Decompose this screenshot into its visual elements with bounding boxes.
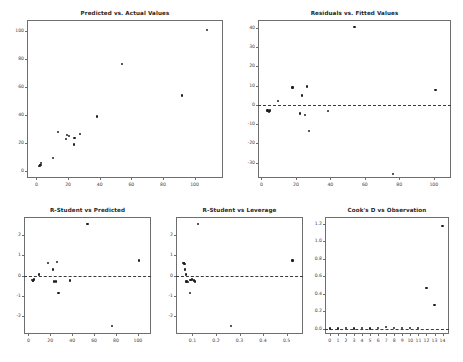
y-tick-cooks-d-vs-observation <box>323 259 325 260</box>
y-tick-label-rstudent-vs-predicted: 0 <box>2 273 21 279</box>
y-tick-rstudent-vs-leverage <box>174 296 176 297</box>
x-tick-label-residuals-vs-fitted: 0 <box>260 182 263 188</box>
y-tick-residuals-vs-fitted <box>256 86 258 87</box>
data-point <box>32 280 34 282</box>
data-point <box>185 273 187 275</box>
data-point <box>304 114 306 116</box>
x-tick-label-cooks-d-vs-observation: 13 <box>432 338 438 344</box>
chart-panel-predicted-vs-actual: Predicted vs. Actual Values0204060801000… <box>0 0 463 362</box>
y-tick-label-cooks-d-vs-observation: 1.2 <box>303 221 322 227</box>
x-tick-label-cooks-d-vs-observation: 12 <box>424 338 430 344</box>
x-tick-label-cooks-d-vs-observation: 0 <box>328 338 331 344</box>
data-point <box>361 327 363 329</box>
y-tick-cooks-d-vs-observation <box>323 329 325 330</box>
x-tick-residuals-vs-fitted <box>399 178 400 180</box>
y-tick-label-residuals-vs-fitted: -30 <box>236 160 255 166</box>
x-tick-cooks-d-vs-observation <box>402 334 403 336</box>
plot-area-residuals-vs-fitted <box>258 20 451 178</box>
y-tick-label-cooks-d-vs-observation: 0.2 <box>303 308 322 314</box>
x-tick-residuals-vs-fitted <box>365 178 366 180</box>
data-point <box>269 109 271 111</box>
x-tick-residuals-vs-fitted <box>434 178 435 180</box>
x-tick-cooks-d-vs-observation <box>338 334 339 336</box>
y-tick-rstudent-vs-predicted <box>22 255 24 256</box>
y-tick-rstudent-vs-leverage <box>174 255 176 256</box>
x-tick-predicted-vs-actual <box>195 178 196 180</box>
chart-title-cooks-d-vs-observation: Cook's D vs Observation <box>325 206 449 214</box>
x-tick-rstudent-vs-leverage <box>287 334 288 336</box>
x-tick-label-predicted-vs-actual: 80 <box>160 182 166 188</box>
x-tick-label-rstudent-vs-predicted: 40 <box>69 338 75 344</box>
data-point <box>433 304 435 306</box>
data-point <box>73 143 75 145</box>
x-tick-residuals-vs-fitted <box>330 178 331 180</box>
data-point <box>206 29 208 31</box>
data-point <box>369 327 371 329</box>
y-tick-label-residuals-vs-fitted: 30 <box>236 44 255 50</box>
x-tick-cooks-d-vs-observation <box>386 334 387 336</box>
data-point <box>401 327 403 329</box>
y-tick-residuals-vs-fitted <box>256 47 258 48</box>
x-tick-label-rstudent-vs-predicted: 100 <box>133 338 142 344</box>
data-point <box>39 164 41 166</box>
reference-line-cooks-d-vs-observation <box>325 329 449 330</box>
y-tick-label-residuals-vs-fitted: 40 <box>236 25 255 31</box>
x-tick-cooks-d-vs-observation <box>378 334 379 336</box>
y-tick-residuals-vs-fitted <box>256 66 258 67</box>
data-point <box>327 110 329 112</box>
x-tick-label-residuals-vs-fitted: 60 <box>362 182 368 188</box>
x-tick-label-cooks-d-vs-observation: 2 <box>344 338 347 344</box>
data-point <box>68 135 70 137</box>
y-tick-residuals-vs-fitted <box>256 143 258 144</box>
x-tick-predicted-vs-actual <box>100 178 101 180</box>
y-tick-label-predicted-vs-actual: 60 <box>5 84 24 90</box>
x-tick-label-cooks-d-vs-observation: 7 <box>385 338 388 344</box>
data-point <box>230 325 232 327</box>
y-tick-rstudent-vs-predicted <box>22 296 24 297</box>
x-tick-label-predicted-vs-actual: 20 <box>65 182 71 188</box>
x-tick-label-predicted-vs-actual: 0 <box>35 182 38 188</box>
data-point <box>306 85 308 87</box>
x-tick-cooks-d-vs-observation <box>435 334 436 336</box>
x-tick-label-rstudent-vs-predicted: 0 <box>27 338 30 344</box>
x-tick-rstudent-vs-leverage <box>216 334 217 336</box>
y-tick-label-rstudent-vs-predicted: -1 <box>2 293 21 299</box>
y-tick-predicted-vs-actual <box>25 115 27 116</box>
data-point <box>299 112 301 114</box>
x-tick-cooks-d-vs-observation <box>370 334 371 336</box>
x-tick-cooks-d-vs-observation <box>354 334 355 336</box>
y-tick-label-cooks-d-vs-observation: 0.8 <box>303 256 322 262</box>
data-point <box>181 94 183 96</box>
x-tick-label-rstudent-vs-predicted: 20 <box>47 338 53 344</box>
data-point <box>56 261 58 263</box>
data-point <box>33 278 35 280</box>
x-tick-label-rstudent-vs-leverage: 0.4 <box>259 338 266 344</box>
data-point <box>31 279 33 281</box>
plot-area-predicted-vs-actual <box>27 20 223 178</box>
x-tick-label-residuals-vs-fitted: 80 <box>396 182 402 188</box>
x-tick-cooks-d-vs-observation <box>362 334 363 336</box>
y-tick-predicted-vs-actual <box>25 31 27 32</box>
x-tick-label-residuals-vs-fitted: 20 <box>293 182 299 188</box>
plot-area-cooks-d-vs-observation <box>325 217 449 334</box>
data-point <box>291 86 293 88</box>
x-tick-label-cooks-d-vs-observation: 4 <box>361 338 364 344</box>
chart-panel-residuals-vs-fitted: Residuals vs. Fitted Values020406080100-… <box>0 0 463 362</box>
x-tick-label-rstudent-vs-leverage: 0.1 <box>189 338 196 344</box>
y-tick-cooks-d-vs-observation <box>323 276 325 277</box>
data-point <box>73 137 75 139</box>
data-point <box>194 280 196 282</box>
x-tick-label-cooks-d-vs-observation: 5 <box>369 338 372 344</box>
x-tick-rstudent-vs-predicted <box>94 334 95 336</box>
x-tick-cooks-d-vs-observation <box>346 334 347 336</box>
data-point <box>301 94 303 96</box>
plot-area-rstudent-vs-leverage <box>176 217 303 334</box>
data-point <box>377 327 379 329</box>
x-tick-cooks-d-vs-observation <box>330 334 331 336</box>
data-point <box>38 165 40 167</box>
data-point <box>86 223 88 225</box>
y-tick-label-rstudent-vs-leverage: -1 <box>154 293 173 299</box>
x-tick-label-cooks-d-vs-observation: 1 <box>336 338 339 344</box>
data-point <box>189 292 191 294</box>
reference-line-residuals-vs-fitted <box>258 105 451 106</box>
